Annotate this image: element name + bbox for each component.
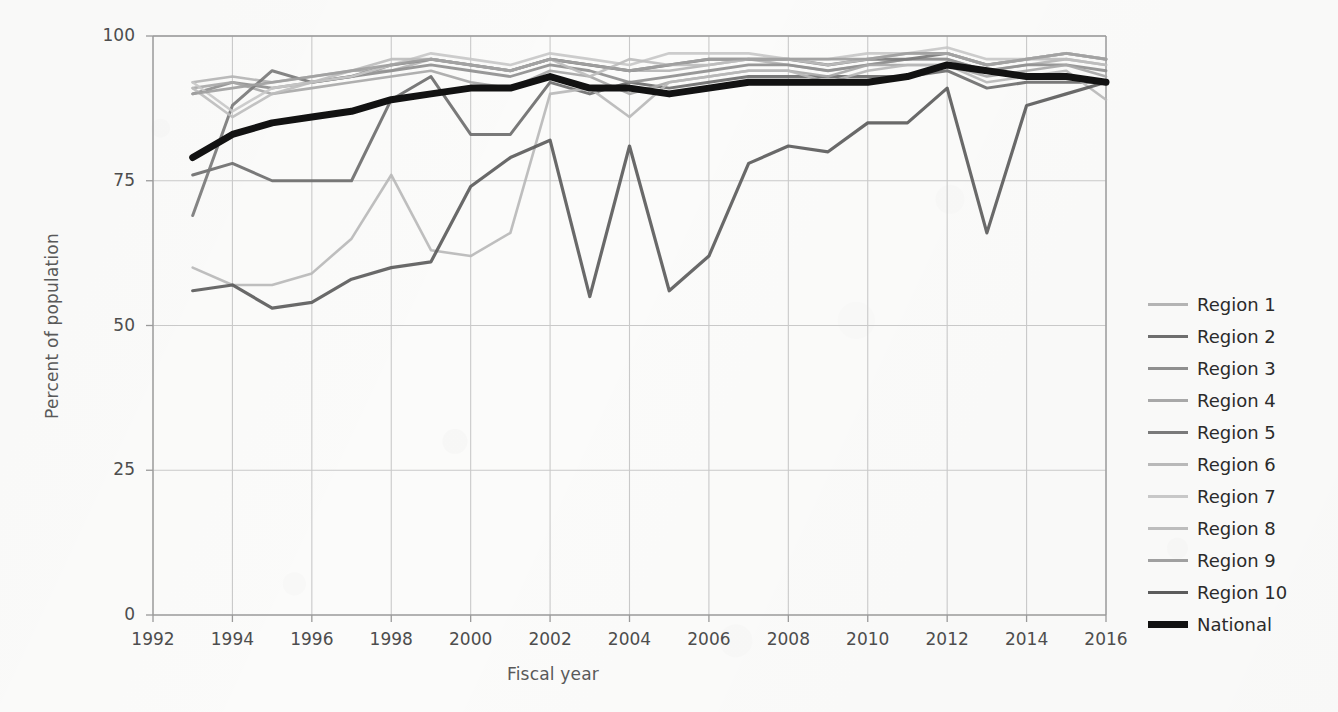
legend-line-swatch <box>1148 495 1188 498</box>
legend-item-region-9[interactable]: Region 9 <box>1148 544 1287 576</box>
series-line-region-6 <box>193 65 1106 285</box>
legend-item-label: Region 2 <box>1197 326 1276 347</box>
y-tick-label: 25 <box>53 459 135 479</box>
y-axis-title: Percent of population <box>42 46 62 606</box>
legend-item-label: Region 9 <box>1197 550 1276 571</box>
legend-item-label: Region 1 <box>1197 294 1276 315</box>
y-tick-label: 0 <box>53 604 135 624</box>
y-tick-label: 75 <box>53 170 135 190</box>
legend-item-region-6[interactable]: Region 6 <box>1148 448 1287 480</box>
x-tick-label: 2008 <box>743 629 833 649</box>
legend-line-swatch <box>1148 527 1188 530</box>
x-axis-title: Fiscal year <box>0 664 1106 684</box>
data-series-layer <box>193 48 1106 309</box>
legend-item-label: National <box>1197 614 1272 635</box>
legend-item-label: Region 10 <box>1197 582 1287 603</box>
legend-item-label: Region 7 <box>1197 486 1276 507</box>
legend-line-swatch <box>1148 621 1188 628</box>
legend-item-region-5[interactable]: Region 5 <box>1148 416 1287 448</box>
chart-legend: Region 1Region 2Region 3Region 4Region 5… <box>1148 288 1287 640</box>
x-tick-label: 2004 <box>585 629 675 649</box>
y-tick-label: 100 <box>53 25 135 45</box>
legend-item-national[interactable]: National <box>1148 608 1287 640</box>
axis-tick-marks <box>146 36 1106 622</box>
legend-item-region-8[interactable]: Region 8 <box>1148 512 1287 544</box>
legend-item-region-4[interactable]: Region 4 <box>1148 384 1287 416</box>
legend-item-region-7[interactable]: Region 7 <box>1148 480 1287 512</box>
x-tick-label: 1998 <box>346 629 436 649</box>
x-tick-label: 1996 <box>267 629 357 649</box>
legend-line-swatch <box>1148 399 1188 402</box>
legend-item-label: Region 4 <box>1197 390 1276 411</box>
y-tick-label: 50 <box>53 315 135 335</box>
legend-item-region-10[interactable]: Region 10 <box>1148 576 1287 608</box>
x-tick-label: 2014 <box>982 629 1072 649</box>
legend-item-region-3[interactable]: Region 3 <box>1148 352 1287 384</box>
x-tick-label: 2000 <box>426 629 516 649</box>
legend-item-label: Region 3 <box>1197 358 1276 379</box>
legend-item-region-2[interactable]: Region 2 <box>1148 320 1287 352</box>
legend-line-swatch <box>1148 335 1188 338</box>
legend-item-region-1[interactable]: Region 1 <box>1148 288 1287 320</box>
legend-line-swatch <box>1148 367 1188 370</box>
x-tick-label: 2012 <box>902 629 992 649</box>
x-tick-label: 1992 <box>108 629 198 649</box>
legend-line-swatch <box>1148 431 1188 434</box>
legend-line-swatch <box>1148 559 1188 562</box>
legend-item-label: Region 6 <box>1197 454 1276 475</box>
legend-item-label: Region 8 <box>1197 518 1276 539</box>
legend-item-label: Region 5 <box>1197 422 1276 443</box>
chart-figure: 0255075100199219941996199820002002200420… <box>0 0 1338 712</box>
x-tick-label: 2006 <box>664 629 754 649</box>
x-tick-label: 2002 <box>505 629 595 649</box>
x-tick-label: 2016 <box>1061 629 1151 649</box>
legend-line-swatch <box>1148 463 1188 466</box>
legend-line-swatch <box>1148 303 1188 306</box>
line-chart-plot <box>0 0 1338 712</box>
x-tick-label: 1994 <box>187 629 277 649</box>
legend-line-swatch <box>1148 591 1188 594</box>
x-tick-label: 2010 <box>823 629 913 649</box>
